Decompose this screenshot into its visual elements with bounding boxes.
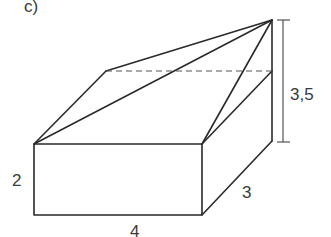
roof-wedge xyxy=(34,20,272,144)
cuboid-base xyxy=(34,20,272,215)
total-height-label: 3,5 xyxy=(290,85,314,104)
right-bottom-edge xyxy=(202,141,272,215)
box-height-label: 2 xyxy=(12,171,21,190)
length-label: 4 xyxy=(130,222,139,237)
height-dimension-line xyxy=(277,20,290,142)
front-face xyxy=(34,144,202,215)
roof-left-slope xyxy=(34,71,106,144)
geometry-figure: c) 3,5 2 4 3 xyxy=(0,0,331,237)
depth-label: 3 xyxy=(242,183,251,202)
part-label: c) xyxy=(24,0,38,16)
